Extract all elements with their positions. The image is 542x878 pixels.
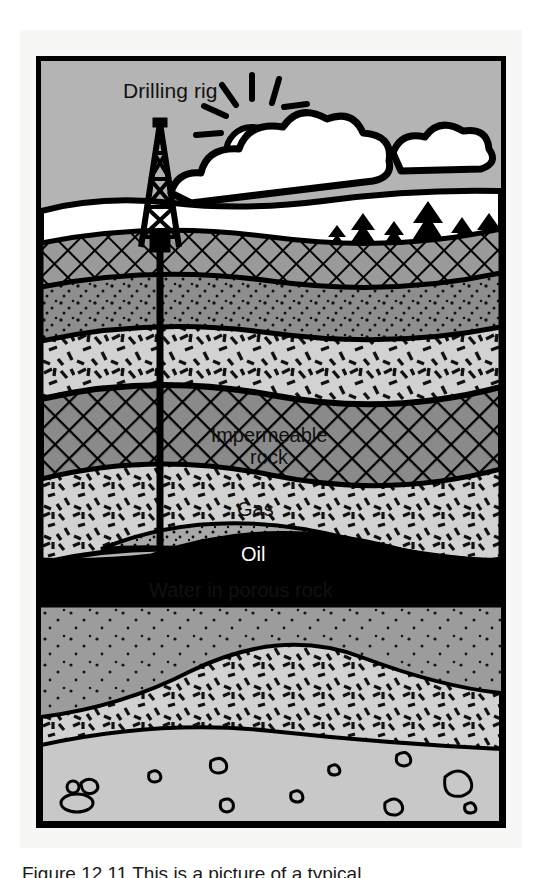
- label-gas: Gas: [237, 498, 274, 520]
- figure-caption: Figure 12.11 This is a picture of a typi…: [22, 862, 522, 878]
- label-impermeable-line1: Impermeable: [189, 424, 349, 446]
- label-water-in-porous-rock: Water in porous rock: [149, 579, 333, 601]
- label-oil: Oil: [241, 543, 265, 565]
- label-impermeable-line2: rock: [189, 446, 349, 468]
- label-impermeable-rock: Impermeable rock: [189, 424, 349, 469]
- figure-frame: Drilling rig Impermeable rock Gas Oil Wa…: [36, 56, 506, 828]
- cross-section-diagram: Drilling rig Impermeable rock Gas Oil Wa…: [41, 61, 501, 823]
- label-drilling-rig: Drilling rig: [123, 79, 218, 103]
- figure-page: Drilling rig Impermeable rock Gas Oil Wa…: [0, 0, 542, 878]
